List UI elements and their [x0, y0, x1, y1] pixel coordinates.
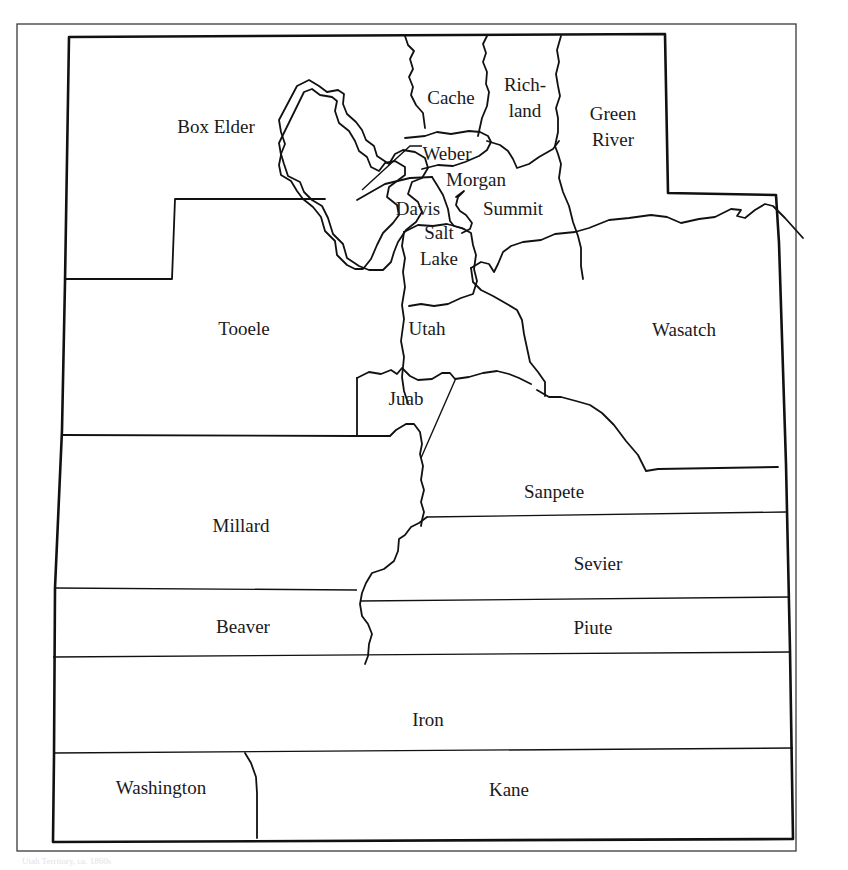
figure-frame — [17, 24, 796, 851]
county-label-tooele: Tooele — [218, 318, 269, 339]
county-label-sevier: Sevier — [574, 553, 623, 574]
county-label-washington: Washington — [116, 777, 207, 798]
great-salt-lake — [279, 80, 428, 270]
county-label-sanpete: Sanpete — [524, 481, 584, 502]
county-label-juab: Juab — [389, 388, 424, 409]
county-label-wasatch: Wasatch — [652, 319, 716, 340]
county-label-richland: Rich-land — [504, 74, 546, 121]
county-label-beaver: Beaver — [216, 616, 270, 637]
county-label-millard: Millard — [213, 515, 270, 536]
county-label-davis: Davis — [396, 198, 440, 219]
county-label-weber: Weber — [422, 143, 472, 164]
county-label-utah: Utah — [409, 318, 446, 339]
county-label-piute: Piute — [573, 617, 612, 638]
utah-county-map: Box ElderCacheRich-landGreenRiverWeberMo… — [0, 0, 848, 870]
county-label-green-river: GreenRiver — [590, 103, 637, 150]
county-label-box-elder: Box Elder — [177, 116, 255, 137]
figure-caption: Utah Territory, ca. 1860s — [22, 856, 111, 866]
county-label-morgan: Morgan — [446, 169, 506, 190]
county-label-cache: Cache — [427, 87, 474, 108]
county-label-iron: Iron — [412, 709, 444, 730]
county-label-salt-lake: SaltLake — [420, 222, 458, 269]
county-label-summit: Summit — [483, 198, 544, 219]
county-label-kane: Kane — [489, 779, 529, 800]
county-labels: Box ElderCacheRich-landGreenRiverWeberMo… — [116, 74, 717, 800]
